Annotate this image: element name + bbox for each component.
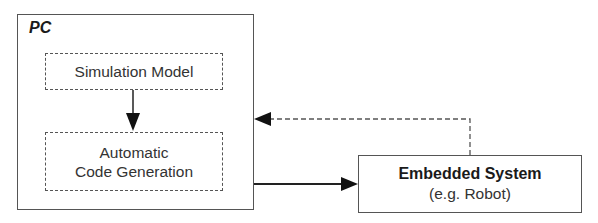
code-generation-line-2: Code Generation (75, 162, 193, 181)
pc-label: PC (29, 19, 51, 37)
arrow-code-to-embedded (254, 177, 358, 191)
embedded-system-node: Embedded System (e.g. Robot) (358, 155, 582, 213)
embedded-system-subtitle: (e.g. Robot) (429, 184, 511, 204)
simulation-model-label: Simulation Model (75, 62, 194, 81)
simulation-model-node: Simulation Model (45, 53, 223, 90)
code-generation-line-1: Automatic (100, 143, 169, 162)
arrow-embedded-to-pc-dashed (254, 112, 470, 155)
code-generation-node: Automatic Code Generation (45, 132, 223, 191)
embedded-system-title: Embedded System (398, 164, 541, 184)
